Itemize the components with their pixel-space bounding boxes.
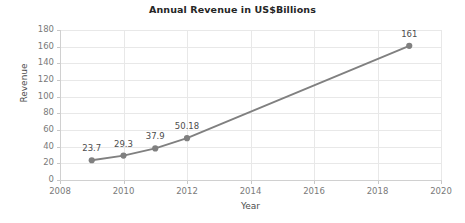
- data-point-marker: [406, 43, 412, 49]
- data-point-label: 37.9: [135, 131, 175, 141]
- data-point-label: 50.18: [167, 121, 207, 131]
- data-point-marker: [184, 135, 190, 141]
- y-axis-title: Revenue: [19, 48, 29, 118]
- data-point-marker: [120, 152, 126, 158]
- data-point-marker: [152, 145, 158, 151]
- x-axis-title: Year: [60, 201, 441, 211]
- data-point-marker: [89, 157, 95, 163]
- data-point-label: 161: [389, 29, 429, 39]
- line-chart: Annual Revenue in US$Billions 0204060801…: [0, 0, 465, 223]
